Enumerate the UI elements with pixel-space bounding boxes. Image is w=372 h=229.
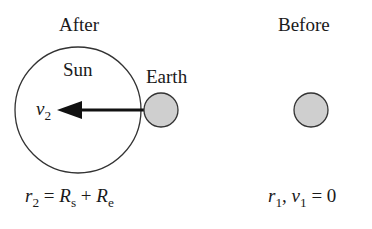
sun-label: Sun [63,59,93,81]
equals-zero: = 0 [307,185,337,206]
equals-sign: = [39,185,59,206]
re-subscript: e [108,195,114,210]
v1-symbol: v [292,185,300,206]
after-heading: After [59,14,99,36]
plus-sign: + [76,185,96,206]
earth-before [294,93,328,127]
velocity-subscript: 2 [44,108,51,123]
before-equation: r1, v1 = 0 [268,185,336,207]
rs-symbol: R [59,185,71,206]
velocity-arrow-head [57,101,82,119]
earth-after [144,93,178,127]
earth-label: Earth [146,66,187,88]
v1-subscript: 1 [300,195,307,210]
before-heading: Before [278,14,330,36]
after-equation: r2 = Rs + Re [25,185,114,207]
velocity-label: v2 [36,98,51,120]
re-symbol: R [96,185,108,206]
comma: , [282,185,292,206]
